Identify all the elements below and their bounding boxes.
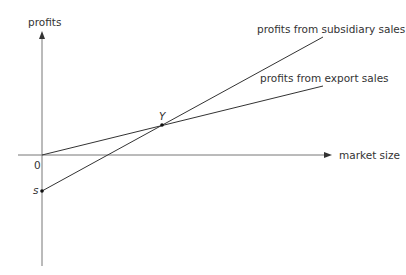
- diagram: profits market size 0 s Y profits from s…: [0, 0, 406, 275]
- y-axis-label: profits: [28, 16, 61, 28]
- y-axis-arrow-icon: [39, 31, 45, 39]
- export-line-label: profits from export sales: [260, 72, 389, 84]
- s-label: s: [33, 184, 39, 196]
- export-sales-line: [42, 86, 323, 155]
- x-axis-arrow-icon: [324, 152, 332, 158]
- intersection-label: Y: [159, 110, 167, 122]
- x-axis-label: market size: [339, 149, 400, 161]
- s-point: [40, 189, 44, 193]
- intersection-point: [160, 123, 164, 127]
- subsidiary-line-label: profits from subsidiary sales: [257, 23, 405, 35]
- subsidiary-sales-line: [42, 37, 323, 191]
- origin-label: 0: [34, 159, 41, 171]
